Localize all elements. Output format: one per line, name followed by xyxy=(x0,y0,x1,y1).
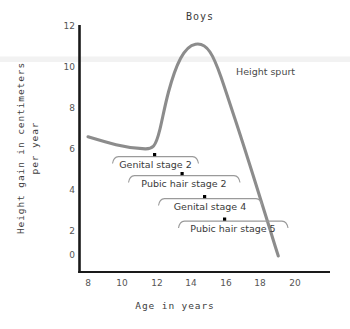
x-tick-label-20: 20 xyxy=(285,278,305,288)
x-tick-label-12: 12 xyxy=(147,278,167,288)
stage-label-pubic-hair-stage-5: Pubic hair stage 5 xyxy=(178,223,288,234)
y-tick-label-4: 4 xyxy=(53,185,75,195)
y-tick-label-8: 8 xyxy=(53,103,75,113)
height-spurt-annotation: Height spurt xyxy=(236,66,295,77)
stage-label-genital-stage-2: Genital stage 2 xyxy=(112,159,199,170)
y-tick-label-12: 12 xyxy=(53,21,75,31)
y-tick-label-0: 0 xyxy=(53,250,75,260)
chart-title: Boys xyxy=(186,11,214,22)
y-tick-label-2: 2 xyxy=(53,226,75,236)
chart-figure: 12 10 8 6 4 2 0 8 10 12 14 16 18 20 Heig… xyxy=(0,0,350,329)
x-tick-label-16: 16 xyxy=(216,278,236,288)
y-axis-title-line1: Height gain in centimeters xyxy=(14,28,28,268)
y-tick-label-10: 10 xyxy=(53,62,75,72)
x-tick-label-8: 8 xyxy=(78,278,98,288)
y-axis-title-line2: per year xyxy=(28,28,42,268)
y-tick-label-6: 6 xyxy=(53,144,75,154)
stage-label-genital-stage-4: Genital stage 4 xyxy=(158,201,262,212)
x-tick-label-14: 14 xyxy=(181,278,201,288)
y-axis-title: Height gain in centimeters per year xyxy=(14,28,42,268)
x-axis-title: Age in years xyxy=(0,300,350,311)
x-tick-label-10: 10 xyxy=(112,278,132,288)
stage-label-pubic-hair-stage-2: Pubic hair stage 2 xyxy=(128,178,240,189)
x-tick-label-18: 18 xyxy=(250,278,270,288)
